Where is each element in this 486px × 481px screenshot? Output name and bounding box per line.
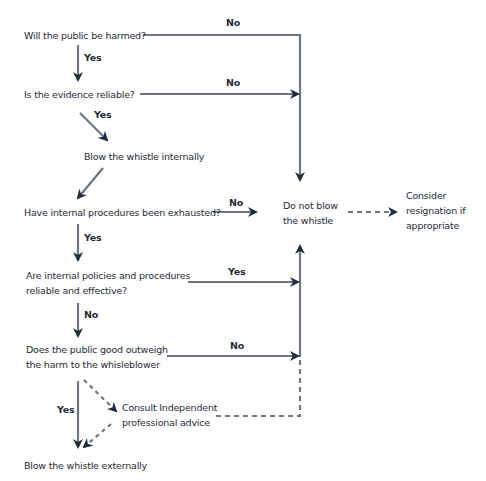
label-harmed-yes: Yes xyxy=(84,52,102,63)
edge-internal-to-exhausted xyxy=(78,168,103,198)
node-text: appropriate xyxy=(406,218,465,233)
node-text: Do not blow xyxy=(283,198,338,213)
node-text: Is the evidence reliable? xyxy=(24,87,135,102)
node-text: the harm to the whisleblower xyxy=(26,357,168,372)
node-text: the whistle xyxy=(283,213,338,228)
edge-consult-to-main-dashed xyxy=(216,358,300,416)
label-evidence-yes: Yes xyxy=(94,109,112,120)
node-text: professional advice xyxy=(122,415,217,430)
node-do-not-blow: Do not blow the whistle xyxy=(283,198,338,228)
node-text: resignation if xyxy=(406,203,465,218)
node-text: reliable and effective? xyxy=(26,283,190,298)
label-exhausted-yes: Yes xyxy=(84,232,102,243)
node-text: Consult Independent xyxy=(122,400,217,415)
node-text: Will the public be harmed? xyxy=(24,28,146,43)
node-policies-reliable: Are internal policies and procedures rel… xyxy=(26,268,190,298)
edge-consult-to-external-dashed xyxy=(84,424,111,447)
node-public-harmed: Will the public be harmed? xyxy=(24,28,146,43)
node-public-good: Does the public good outweigh the harm t… xyxy=(26,342,168,372)
label-harmed-no: No xyxy=(226,17,240,28)
whistleblowing-flowchart: Will the public be harmed? Is the eviden… xyxy=(0,0,486,481)
node-text: Blow the whistle externally xyxy=(24,458,147,473)
node-blow-internally: Blow the whistle internally xyxy=(84,149,204,164)
label-public-good-yes: Yes xyxy=(57,404,75,415)
edge-public-good-to-consult-dashed xyxy=(84,380,116,411)
node-text: Consider xyxy=(406,188,465,203)
node-text: Does the public good outweigh xyxy=(26,342,168,357)
node-text: Blow the whistle internally xyxy=(84,149,204,164)
node-text: Have internal procedures been exhausted? xyxy=(24,205,221,220)
label-exhausted-no: No xyxy=(229,197,243,208)
node-consider-resignation: Consider resignation if appropriate xyxy=(406,188,465,233)
node-blow-externally: Blow the whistle externally xyxy=(24,458,147,473)
label-evidence-no: No xyxy=(226,77,240,88)
node-evidence-reliable: Is the evidence reliable? xyxy=(24,87,135,102)
node-procedures-exhausted: Have internal procedures been exhausted? xyxy=(24,205,221,220)
label-policies-yes: Yes xyxy=(228,266,246,277)
node-text: Are internal policies and procedures xyxy=(26,268,190,283)
label-policies-no: No xyxy=(84,309,98,320)
label-public-good-no: No xyxy=(230,340,244,351)
node-consult-advice: Consult Independent professional advice xyxy=(122,400,217,430)
